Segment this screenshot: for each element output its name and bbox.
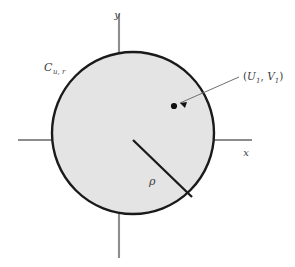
shaded-disk [52,52,214,214]
sample-point-dot [171,103,177,109]
diagram-canvas: y x Cu, r ρ (U1, V1) [0,0,295,267]
disk-label-subscript: u, r [53,68,66,76]
radius-rho-label: ρ [148,175,156,188]
disk-label-main: C [44,61,53,74]
sample-point-label: (U1, V1) [243,70,283,85]
disk-label: Cu, r [44,61,66,76]
y-axis-label: y [113,9,120,20]
paren-close: ) [279,70,283,82]
label-comma: , [260,70,267,82]
x-axis-label: x [243,147,249,158]
figure-container: y x Cu, r ρ (U1, V1) [0,0,295,267]
